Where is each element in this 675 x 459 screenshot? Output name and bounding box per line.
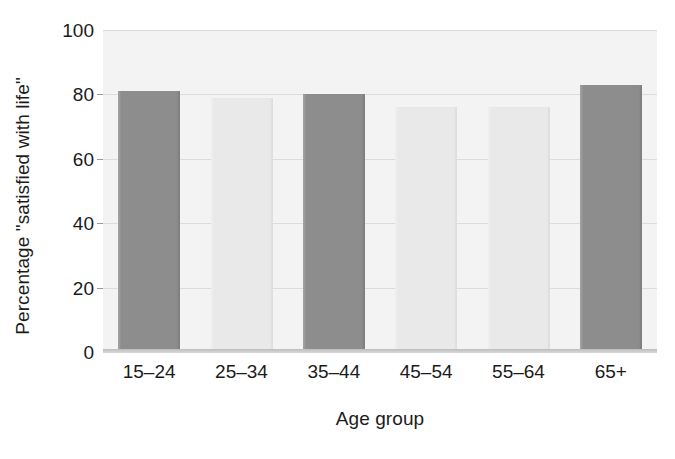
y-tick-label: 80 bbox=[46, 85, 94, 104]
y-tick-label: 40 bbox=[46, 214, 94, 233]
x-tick-label: 45–54 bbox=[400, 362, 453, 381]
bar bbox=[118, 91, 180, 352]
bar-chart-figure: Percentage "satisfied with life" 0204060… bbox=[0, 0, 675, 459]
bar bbox=[211, 98, 273, 352]
bar bbox=[488, 107, 550, 352]
y-tick-label: 60 bbox=[46, 149, 94, 168]
y-tick-label: 0 bbox=[46, 343, 94, 362]
y-axis-tick-labels: 020406080100 bbox=[46, 30, 94, 352]
y-tick-label: 20 bbox=[46, 278, 94, 297]
bars-group bbox=[103, 30, 657, 352]
bar bbox=[580, 85, 642, 352]
y-axis-title: Percentage "satisfied with life" bbox=[8, 30, 38, 382]
x-axis-title: Age group bbox=[103, 408, 657, 430]
x-tick-label: 65+ bbox=[595, 362, 627, 381]
x-axis-line bbox=[103, 349, 657, 353]
bar bbox=[395, 107, 457, 352]
x-tick-label: 15–24 bbox=[123, 362, 176, 381]
x-tick-label: 25–34 bbox=[215, 362, 268, 381]
x-axis-tick-labels: 15–2425–3435–4445–5455–6465+ bbox=[103, 362, 657, 388]
x-tick-label: 35–44 bbox=[307, 362, 360, 381]
y-tick-label: 100 bbox=[46, 21, 94, 40]
plot-area bbox=[103, 30, 657, 352]
x-tick-label: 55–64 bbox=[492, 362, 545, 381]
bar bbox=[303, 94, 365, 352]
